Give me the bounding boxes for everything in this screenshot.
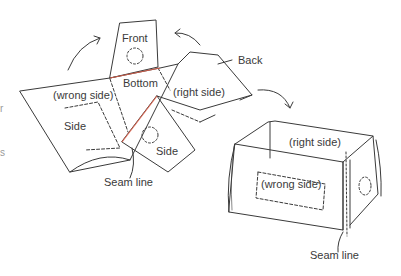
front-circle: [127, 48, 143, 64]
box-circle: [359, 177, 371, 195]
label-side-left: Side: [64, 121, 86, 132]
label-right-side-left: (right side): [173, 87, 225, 98]
edge-fragment-1: r: [0, 104, 3, 114]
label-bottom: Bottom: [123, 78, 158, 89]
label-front: Front: [122, 33, 148, 44]
arrow-down-curve: [258, 90, 290, 108]
label-seam-line-left: Seam line: [104, 177, 153, 188]
seam-highlight-diag: [122, 96, 157, 142]
label-side-right: Side: [156, 146, 178, 157]
bottom-dashed2: [158, 68, 170, 90]
label-back: Back: [238, 55, 262, 66]
seam-strip-dashed: [346, 152, 347, 236]
seam-leader-left: [130, 148, 134, 178]
edge-fragment-2: s: [0, 148, 5, 158]
side-circle: [142, 127, 158, 143]
arrow-left-curve: [68, 38, 100, 70]
arrow-right-curve: [175, 33, 200, 45]
box-right-fold: [376, 140, 381, 196]
right-side-panel: [122, 96, 195, 172]
right-flap-dashed: [172, 110, 200, 122]
label-wrong-side-left: (wrong side): [53, 90, 114, 101]
label-right-side-box: (right side): [289, 137, 341, 148]
label-wrong-side-box: (wrong side): [261, 179, 322, 190]
right-flap-lower: [200, 115, 215, 122]
label-seam-line-box: Seam line: [310, 250, 359, 261]
